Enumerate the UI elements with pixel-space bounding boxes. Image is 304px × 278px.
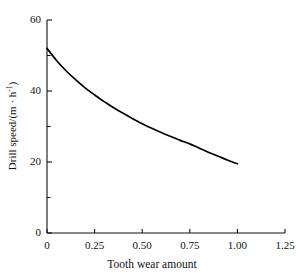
y-tick-label: 0 bbox=[0, 227, 41, 238]
chart-canvas: Drill speed/(m · h-1) bbox=[0, 0, 304, 278]
y-tick-label: 60 bbox=[0, 14, 41, 25]
x-axis-title: Tooth wear amount bbox=[0, 258, 304, 270]
y-tick-label: 40 bbox=[0, 85, 41, 96]
x-axis-ticks bbox=[47, 229, 285, 233]
data-series-line bbox=[47, 48, 237, 163]
y-tick-label: 20 bbox=[0, 156, 41, 167]
chart-figure: Drill speed/(m · h-1) 00.250.500.751.001… bbox=[0, 0, 304, 278]
axis-lines bbox=[47, 20, 285, 233]
x-tick-label: 1.25 bbox=[255, 240, 304, 251]
